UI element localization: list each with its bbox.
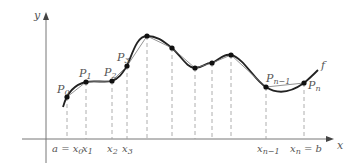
y-axis-label: y — [33, 9, 41, 22]
partition-diagram: x y P0 P1 P2 P3 Pn−1 — [0, 0, 363, 167]
point-p8 — [228, 52, 233, 57]
label-pn-1: Pn−1 — [265, 72, 290, 86]
tick-xn-b: xn = b — [290, 143, 322, 156]
y-axis-arrow-icon — [43, 12, 49, 20]
tick-x3: x3 — [122, 143, 133, 156]
point-pn-1 — [263, 84, 268, 89]
tick-x1: x1 — [82, 143, 93, 156]
point-pn — [301, 80, 306, 85]
label-p3: P3 — [116, 51, 130, 65]
point-p7 — [209, 60, 214, 65]
point-p6 — [192, 65, 197, 70]
x-axis-label: x — [337, 139, 344, 152]
label-p2: P2 — [103, 66, 117, 80]
x-tick-labels: a = x0 x1 x2 x3 xn−1 xn = b — [52, 143, 322, 156]
point-p4 — [144, 33, 149, 38]
x-axis-arrow-icon — [326, 136, 334, 142]
curve-f — [63, 36, 318, 107]
tick-x2: x2 — [107, 143, 118, 156]
label-p0: P0 — [56, 83, 70, 97]
label-p1: P1 — [78, 67, 92, 81]
label-pn: Pn — [307, 79, 321, 93]
point-labels: P0 P1 P2 P3 Pn−1 Pn f — [56, 51, 327, 97]
curve-label-f: f — [320, 59, 327, 72]
tick-xn-1: xn−1 — [257, 143, 280, 156]
point-p5 — [169, 45, 174, 50]
axes: x y — [22, 9, 344, 163]
tick-a-x0: a = x0 — [52, 143, 83, 156]
